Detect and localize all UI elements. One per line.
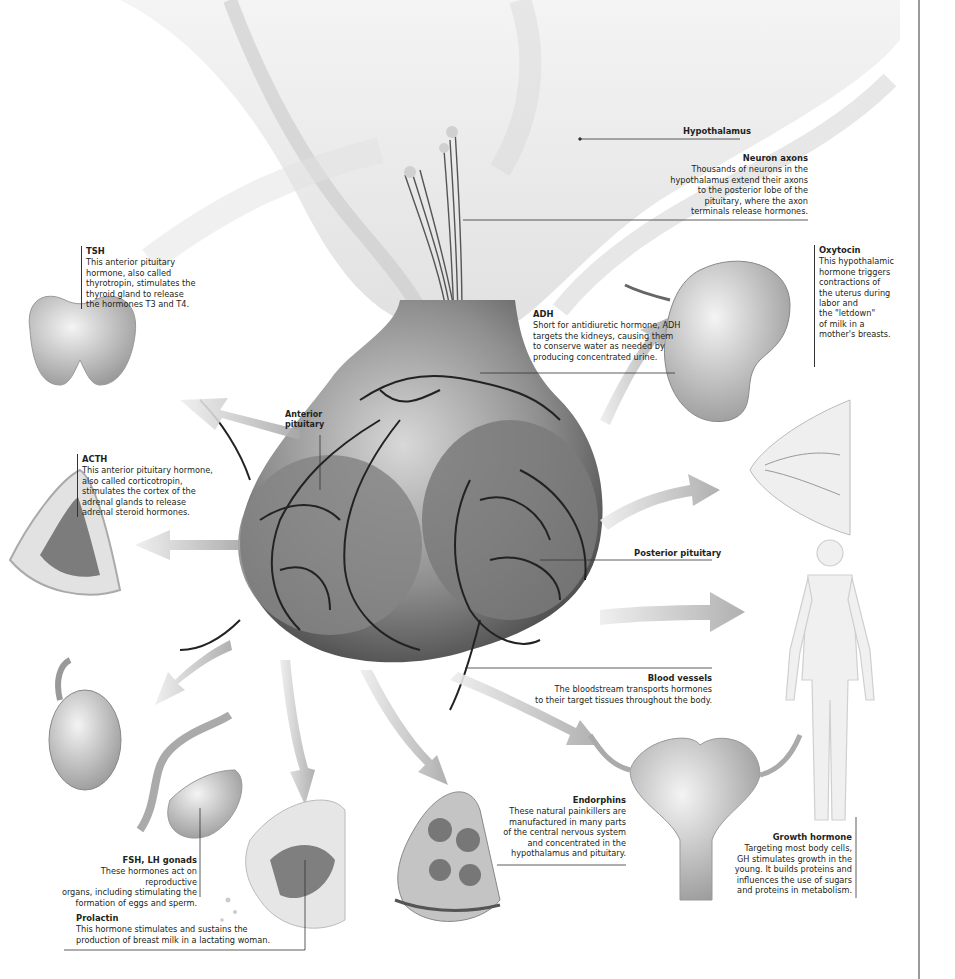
callout-line: to conserve water as needed by [533, 341, 683, 351]
callout-line: the uterus during [819, 288, 899, 298]
callout-tsh: TSH This anterior pituitary hormone, als… [81, 246, 206, 309]
callout-title: Blood vessels [520, 673, 712, 683]
callout-neuron-axons: Neuron axons Thousands of neurons in the… [660, 153, 808, 216]
callout-title: Neuron axons [660, 153, 808, 163]
callout-line: hypothalamus and pituitary. [490, 848, 626, 858]
callout-line: These hormones act on reproductive [55, 866, 197, 887]
callout-line: formation of eggs and sperm. [55, 898, 197, 908]
callout-title: TSH [86, 246, 206, 256]
callout-prolactin: Prolactin This hormone stimulates and su… [76, 913, 306, 945]
callout-line: also called corticotropin, [82, 476, 222, 486]
callout-line: This anterior pituitary hormone, [82, 465, 222, 475]
callout-line: These natural painkillers are [490, 806, 626, 816]
callout-line: adrenal steroid hormones. [82, 507, 222, 517]
callout-line: the hormones T3 and T4. [86, 299, 206, 309]
callout-line: influences the use of sugars [720, 875, 852, 885]
callout-line: the "letdown" [819, 308, 899, 318]
callout-blood-vessels: Blood vessels The bloodstream transports… [520, 673, 712, 705]
callout-line: labor and [819, 298, 899, 308]
callout-line: of milk in a [819, 319, 899, 329]
callout-line: manufactured in many parts [490, 817, 626, 827]
callout-title: Prolactin [76, 913, 306, 923]
callout-line: The bloodstream transports hormones [520, 684, 712, 694]
label-hypothalamus: Hypothalamus [683, 126, 751, 136]
callout-line: hormone triggers [819, 267, 899, 277]
callout-line: hormone, also called [86, 268, 206, 278]
callout-line: hypothalamus extend their axons [660, 175, 808, 185]
breast-oxytocin [750, 400, 850, 535]
callout-line: and proteins in metabolism. [720, 885, 852, 895]
callout-line: This anterior pituitary [86, 257, 206, 267]
callout-line: This hypothalamic [819, 256, 899, 266]
callout-title: Growth hormone [720, 832, 852, 842]
callout-line: Thousands of neurons in the [660, 164, 808, 174]
callout-title: ACTH [82, 454, 222, 464]
callout-line: thyroid gland to release [86, 289, 206, 299]
callout-acth: ACTH This anterior pituitary hormone, al… [77, 454, 222, 517]
synapse [395, 792, 500, 922]
callout-growth-hormone: Growth hormone Targeting most body cells… [720, 832, 852, 895]
callout-title: ADH [533, 309, 683, 319]
label-anterior-line1: Anterior [285, 410, 318, 420]
callout-endorphins: Endorphins These natural painkillers are… [490, 795, 626, 858]
callout-line: Short for antidiuretic hormone, ADH [533, 320, 683, 330]
callout-line: Targeting most body cells, [720, 843, 852, 853]
label-anterior-line2: pituitary [285, 420, 318, 430]
callout-line: thyrotropin, stimulates the [86, 278, 206, 288]
callout-line: of the central nervous system [490, 827, 626, 837]
callout-line: contractions of [819, 277, 899, 287]
callout-line: GH stimulates growth in the [720, 854, 852, 864]
breast-prolactin [220, 800, 345, 928]
thyroid-gland [29, 296, 135, 385]
pituitary-diagram: Hypothalamus Anterior pituitary Posterio… [0, 0, 955, 979]
testis [49, 660, 121, 790]
callout-line: adrenal glands to release [82, 497, 222, 507]
page-edge-rule [918, 0, 920, 979]
callout-line: targets the kidneys, causing them [533, 331, 683, 341]
callout-line: This hormone stimulates and sustains the [76, 924, 306, 934]
ovary [140, 715, 242, 838]
callout-fsh-lh: FSH, LH gonads These hormones act on rep… [55, 855, 197, 908]
callout-line: young. It builds proteins and [720, 864, 852, 874]
callout-line: terminals release hormones. [660, 206, 808, 216]
callout-title: FSH, LH gonads [55, 855, 197, 865]
callout-line: mother's breasts. [819, 329, 899, 339]
callout-adh: ADH Short for antidiuretic hormone, ADH … [533, 309, 683, 362]
callout-title: Oxytocin [819, 245, 899, 255]
callout-line: to their target tissues throughout the b… [520, 695, 712, 705]
callout-line: producing concentrated urine. [533, 352, 683, 362]
callout-line: and concentrated in the [490, 838, 626, 848]
human-figure [786, 540, 874, 820]
callout-line: to the posterior lobe of the [660, 185, 808, 195]
label-anterior-pituitary: Anterior pituitary [285, 410, 318, 431]
callout-oxytocin: Oxytocin This hypothalamic hormone trigg… [814, 245, 899, 367]
callout-line: organs, including stimulating the [55, 887, 197, 897]
callout-line: production of breast milk in a lactating… [76, 935, 306, 945]
callout-title: Endorphins [490, 795, 626, 805]
label-posterior-pituitary: Posterior pituitary [634, 548, 721, 558]
callout-line: pituitary, where the axon [660, 196, 808, 206]
callout-line: stimulates the cortex of the [82, 486, 222, 496]
